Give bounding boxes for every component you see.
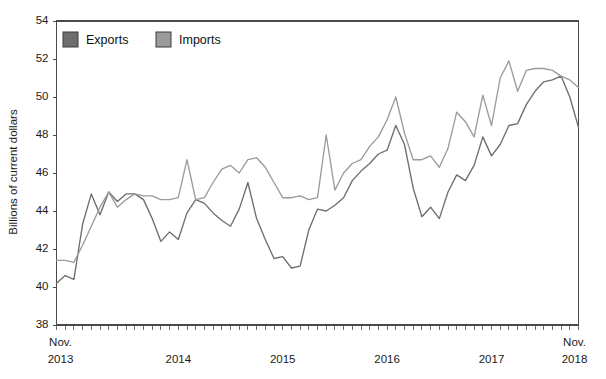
x-label-end-year: 2018 [562, 353, 588, 365]
series-line-exports [57, 76, 579, 283]
y-tick-label: 48 [36, 128, 49, 140]
x-label-year-2015: 2015 [270, 353, 296, 365]
x-axis-ticks [57, 325, 579, 330]
y-tick-label: 50 [36, 90, 49, 102]
chart-legend: ExportsImports [63, 32, 221, 47]
y-axis-tick-labels: 384042444648505254 [36, 14, 49, 330]
y-tick-label: 46 [36, 166, 49, 178]
y-axis-title: Billions of current dollars [7, 109, 19, 235]
series-line-imports [57, 61, 579, 262]
y-axis-ticks [53, 21, 57, 325]
data-series-group [57, 61, 579, 283]
legend-swatch-imports[interactable] [156, 32, 171, 47]
legend-swatch-exports[interactable] [63, 32, 78, 47]
chart-container: 384042444648505254 Nov.20132014201520162… [0, 0, 606, 379]
y-tick-label: 42 [36, 242, 49, 254]
x-label-start-month: Nov. [49, 336, 72, 348]
line-chart: 384042444648505254 Nov.20132014201520162… [0, 0, 606, 379]
axis-frame [57, 21, 579, 325]
legend-label-exports[interactable]: Exports [86, 33, 128, 47]
y-tick-label: 38 [36, 318, 49, 330]
x-label-start-year: 2013 [48, 353, 74, 365]
x-label-year-2014: 2014 [166, 353, 192, 365]
y-tick-label: 52 [36, 52, 49, 64]
x-label-end-month: Nov. [563, 336, 586, 348]
y-tick-label: 40 [36, 280, 49, 292]
legend-label-imports[interactable]: Imports [179, 33, 221, 47]
y-tick-label: 44 [36, 204, 49, 216]
plot-frame [57, 21, 579, 325]
x-axis-tick-labels: Nov.20132014201520162017Nov.2018 [48, 336, 588, 365]
y-tick-label: 54 [36, 14, 49, 26]
x-label-year-2016: 2016 [374, 353, 400, 365]
x-label-year-2017: 2017 [479, 353, 505, 365]
